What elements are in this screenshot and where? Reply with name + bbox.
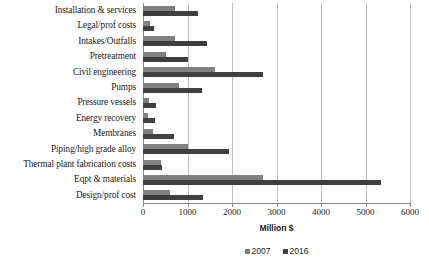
bar-2016 bbox=[143, 134, 174, 139]
bar-group bbox=[143, 49, 410, 64]
bar-2016 bbox=[143, 103, 156, 108]
bar-2016 bbox=[143, 26, 154, 31]
bar-2016 bbox=[143, 72, 263, 77]
category-label: Eqpt & materials bbox=[0, 172, 140, 187]
bar-chart: Installation & servicesLegal/prof costsI… bbox=[0, 0, 429, 267]
category-label: Piping/high grade alloy bbox=[0, 142, 140, 157]
x-tick-label: 0 bbox=[141, 207, 146, 217]
category-label: Pretreatment bbox=[0, 49, 140, 64]
x-tick-label: 5000 bbox=[357, 207, 375, 217]
bar-rows bbox=[143, 3, 410, 203]
bar-group bbox=[143, 65, 410, 80]
bar-group bbox=[143, 157, 410, 172]
bar-2016 bbox=[143, 149, 229, 154]
category-label: Thermal plant fabrication costs bbox=[0, 157, 140, 172]
category-label: Pumps bbox=[0, 80, 140, 95]
x-axis-tick-labels: 0100020003000400050006000 bbox=[143, 207, 410, 219]
category-label: Design/prof cost bbox=[0, 188, 140, 203]
category-label: Membranes bbox=[0, 126, 140, 141]
x-tick-label: 1000 bbox=[179, 207, 197, 217]
legend-swatch-icon bbox=[283, 249, 288, 254]
category-label: Legal/prof costs bbox=[0, 18, 140, 33]
bar-2016 bbox=[143, 57, 188, 62]
category-label: Intakes/Outfalls bbox=[0, 34, 140, 49]
bar-2016 bbox=[143, 11, 198, 16]
bar-2016 bbox=[143, 118, 155, 123]
chart-legend: 20072016 bbox=[143, 246, 410, 256]
x-tick-label: 2000 bbox=[223, 207, 241, 217]
legend-swatch-icon bbox=[245, 249, 250, 254]
bar-group bbox=[143, 3, 410, 18]
bar-group bbox=[143, 34, 410, 49]
bar-group bbox=[143, 111, 410, 126]
bar-group bbox=[143, 126, 410, 141]
bar-group bbox=[143, 95, 410, 110]
legend-item-2016[interactable]: 2016 bbox=[283, 246, 309, 256]
bar-group bbox=[143, 18, 410, 33]
category-label: Installation & services bbox=[0, 3, 140, 18]
category-label: Energy recovery bbox=[0, 111, 140, 126]
legend-item-2007[interactable]: 2007 bbox=[245, 246, 271, 256]
bar-group bbox=[143, 142, 410, 157]
bar-2016 bbox=[143, 88, 202, 93]
legend-label: 2007 bbox=[252, 246, 271, 256]
legend-label: 2016 bbox=[290, 246, 309, 256]
plot-area bbox=[143, 3, 410, 203]
x-tick-label: 4000 bbox=[312, 207, 330, 217]
category-label: Pressure vessels bbox=[0, 95, 140, 110]
category-label: Civil engineering bbox=[0, 65, 140, 80]
bar-2016 bbox=[143, 195, 203, 200]
x-tick-label: 6000 bbox=[401, 207, 419, 217]
bar-2016 bbox=[143, 41, 207, 46]
bar-group bbox=[143, 188, 410, 203]
gridline bbox=[410, 3, 411, 203]
bar-2016 bbox=[143, 180, 381, 185]
bar-2016 bbox=[143, 165, 162, 170]
bar-group bbox=[143, 80, 410, 95]
bar-group bbox=[143, 172, 410, 187]
category-axis-labels: Installation & servicesLegal/prof costsI… bbox=[0, 3, 140, 203]
x-axis-title: Million $ bbox=[143, 223, 410, 233]
x-tick-label: 3000 bbox=[268, 207, 286, 217]
